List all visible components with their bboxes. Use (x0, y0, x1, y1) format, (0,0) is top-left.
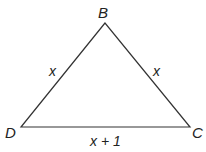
vertex-label-d: D (5, 124, 16, 141)
side-label-bc: x (152, 63, 161, 79)
triangle-bdc (21, 23, 190, 127)
vertex-label-c: C (192, 124, 203, 141)
side-label-db: x (48, 63, 57, 79)
vertex-label-b: B (98, 4, 108, 21)
side-label-dc: x + 1 (89, 133, 121, 149)
triangle-diagram: B D C x x x + 1 (0, 0, 206, 152)
